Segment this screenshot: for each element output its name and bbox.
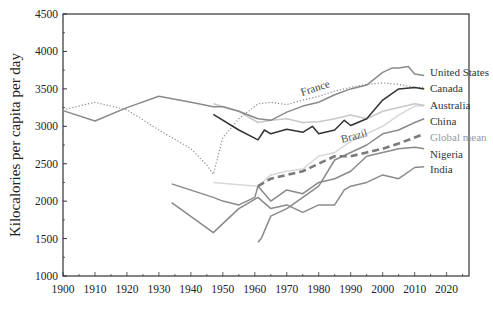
y-tick-label: 3500 — [35, 83, 58, 95]
y-tick-label: 2500 — [35, 158, 58, 170]
series-label-canada: Canada — [430, 82, 463, 94]
y-axis-label: Kilocalories per capita per day — [7, 52, 23, 237]
series-labels: United StatesCanadaAustraliaChinaGlobal … — [430, 66, 489, 175]
x-tick-label: 1930 — [147, 283, 170, 295]
y-tick-label: 3000 — [35, 120, 58, 132]
france-annotation: France — [299, 77, 331, 98]
x-tick-label: 2000 — [371, 283, 394, 295]
x-tick-label: 1980 — [307, 283, 330, 295]
x-tick-label: 1970 — [275, 283, 298, 295]
x-tick-label: 2020 — [435, 283, 458, 295]
x-tick-label: 1940 — [179, 283, 202, 295]
series-line-india — [172, 167, 425, 233]
x-tick-label: 1950 — [211, 283, 234, 295]
y-axis: 10001500200025003000350040004500 — [35, 8, 67, 282]
y-tick-label: 4000 — [35, 45, 58, 57]
series-line-united-states — [63, 66, 424, 121]
x-tick-label: 1910 — [83, 283, 106, 295]
plot-frame — [63, 14, 469, 276]
x-tick-label: 2010 — [403, 283, 426, 295]
x-tick-label: 1960 — [243, 283, 266, 295]
series-line-brazil — [213, 106, 424, 186]
y-tick-label: 2000 — [35, 195, 58, 207]
brazil-annotation: Brazil — [339, 126, 368, 145]
figure-caption-cutoff — [0, 298, 493, 309]
line-chart: 10001500200025003000350040004500 1900191… — [0, 0, 493, 309]
x-tick-label: 1920 — [115, 283, 138, 295]
series-label-united-states: United States — [430, 66, 489, 78]
series-label-india: India — [430, 163, 453, 175]
x-tick-label: 1900 — [52, 283, 75, 295]
x-tick-label: 1990 — [339, 283, 362, 295]
series-lines — [63, 66, 424, 242]
series-label-global-mean: Global mean — [430, 131, 487, 143]
y-tick-label: 4500 — [35, 8, 58, 20]
series-label-nigeria: Nigeria — [430, 148, 463, 160]
y-tick-label: 1500 — [35, 233, 58, 245]
series-label-australia: Australia — [430, 99, 470, 111]
y-tick-label: 1000 — [35, 270, 58, 282]
series-line-france — [63, 83, 424, 174]
series-label-china: China — [430, 115, 456, 127]
